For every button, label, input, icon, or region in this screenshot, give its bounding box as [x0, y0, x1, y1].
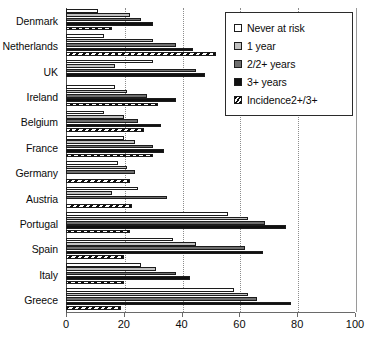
y-axis-label-germany: Germany — [0, 160, 62, 185]
legend-item: 1 year — [234, 37, 346, 55]
bar — [66, 119, 138, 123]
bar — [66, 238, 173, 242]
y-axis-label-uk: UK — [0, 59, 62, 84]
bar — [66, 140, 135, 144]
x-axis-tick-label: 60 — [233, 318, 245, 330]
legend-swatch-icon — [234, 78, 242, 86]
y-axis-label-ireland: Ireland — [0, 84, 62, 109]
legend-swatch-icon — [234, 60, 242, 68]
bar — [66, 297, 257, 301]
bar-chart: DenmarkNetherlandsUKIrelandBelgiumFrance… — [0, 0, 372, 349]
bar — [66, 255, 124, 259]
y-axis-label-france: France — [0, 135, 62, 160]
legend-item: Never at risk — [234, 19, 346, 37]
x-axis-tick — [182, 313, 183, 317]
bar — [66, 242, 196, 246]
bar — [66, 136, 124, 140]
bar — [66, 263, 141, 267]
legend-label: 1 year — [247, 40, 276, 52]
bar — [66, 281, 124, 285]
legend-label: 3+ years — [247, 76, 287, 88]
y-axis-label-greece: Greece — [0, 287, 62, 312]
bar — [66, 98, 176, 102]
bar — [66, 302, 291, 306]
bar — [66, 179, 130, 183]
x-axis-tick-label: 20 — [118, 318, 130, 330]
y-axis-label-netherlands: Netherlands — [0, 33, 62, 58]
bar — [66, 161, 118, 165]
legend-label: Never at risk — [247, 22, 305, 34]
bar — [66, 13, 130, 17]
bar — [66, 225, 286, 229]
bar — [66, 170, 135, 174]
y-axis-label-austria: Austria — [0, 186, 62, 211]
bar — [66, 115, 124, 119]
bar — [66, 48, 193, 52]
bar — [66, 9, 98, 13]
bar-group — [66, 186, 355, 211]
legend-swatch-icon — [234, 42, 242, 50]
bar — [66, 191, 112, 195]
x-axis-tick — [297, 313, 298, 317]
bar — [66, 293, 248, 297]
y-axis-label-denmark: Denmark — [0, 8, 62, 33]
x-axis-tick — [124, 313, 125, 317]
x-axis-tick-label: 40 — [175, 318, 187, 330]
legend-swatch-icon — [234, 96, 242, 104]
legend-label: 2/2+ years — [247, 58, 295, 70]
bar — [66, 196, 167, 200]
bar — [66, 52, 216, 56]
bar — [66, 111, 104, 115]
y-axis-category-labels: DenmarkNetherlandsUKIrelandBelgiumFrance… — [0, 8, 62, 313]
bar-group — [66, 160, 355, 185]
bar-group — [66, 135, 355, 160]
legend-item: 2/2+ years — [234, 55, 346, 73]
x-axis-tick-label: 100 — [346, 318, 364, 330]
bar — [66, 18, 141, 22]
bar — [66, 288, 234, 292]
bar — [66, 22, 153, 26]
bar — [66, 272, 176, 276]
x-axis-tick — [355, 313, 356, 317]
bar — [66, 27, 112, 31]
bar — [66, 85, 115, 89]
bar-group — [66, 262, 355, 287]
gridline — [356, 8, 357, 312]
y-axis-label-italy: Italy — [0, 262, 62, 287]
y-axis-label-spain: Spain — [0, 237, 62, 262]
bar — [66, 94, 147, 98]
bar — [66, 204, 132, 208]
bar — [66, 39, 153, 43]
bar — [66, 212, 228, 216]
bar — [66, 217, 248, 221]
bar — [66, 124, 161, 128]
bar — [66, 90, 127, 94]
bar-group — [66, 237, 355, 262]
bar — [66, 128, 144, 132]
bar — [66, 149, 164, 153]
bar — [66, 221, 265, 225]
legend-item: Incidence2+/3+ — [234, 91, 346, 109]
y-axis-label-portugal: Portugal — [0, 211, 62, 236]
bar — [66, 187, 138, 191]
bar — [66, 166, 127, 170]
bar — [66, 246, 245, 250]
bar-group — [66, 287, 355, 312]
chart-legend: Never at risk1 year2/2+ years3+ yearsInc… — [225, 12, 353, 116]
bar — [66, 276, 190, 280]
bar — [66, 73, 205, 77]
bar — [66, 145, 153, 149]
x-axis-tick — [239, 313, 240, 317]
bar — [66, 103, 158, 107]
bar — [66, 251, 263, 255]
legend-item: 3+ years — [234, 73, 346, 91]
bar — [66, 230, 130, 234]
bar — [66, 69, 196, 73]
legend-swatch-icon — [234, 24, 242, 32]
y-axis-label-belgium: Belgium — [0, 110, 62, 135]
bar — [66, 34, 104, 38]
bar — [66, 154, 153, 158]
bar — [66, 60, 153, 64]
x-axis-tick — [66, 313, 67, 317]
bar — [66, 306, 121, 310]
